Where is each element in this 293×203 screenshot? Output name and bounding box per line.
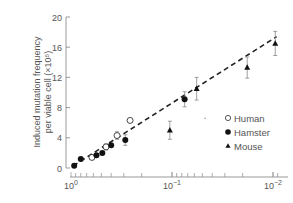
data-point-human (127, 117, 133, 123)
legend-label: Hamster (234, 127, 270, 138)
data-point-hamster (78, 156, 84, 162)
data-point-mouse (167, 121, 173, 139)
y-tick-label: 12 (52, 73, 62, 83)
legend-item-human: Human (225, 113, 264, 124)
y-axis-label: Induced mutation frequency per viable ce… (32, 36, 53, 148)
data-point-human (114, 132, 120, 140)
data-point-hamster (108, 142, 114, 148)
data-point-hamster (71, 163, 77, 169)
legend: HumanHamsterMouse (225, 113, 270, 152)
x-axis: 10010−110−2 (64, 172, 288, 191)
legend-item-hamster: Hamster (225, 127, 270, 138)
data-point-hamster (182, 92, 188, 107)
svg-text:per viable cell (×10⁵): per viable cell (×10⁵) (43, 51, 53, 134)
data-point-hamster (99, 150, 105, 156)
x-tick-label: 10−1 (163, 179, 181, 191)
mutation-frequency-chart: 048121620 10010−110−2 Induced mutation f… (0, 0, 293, 203)
legend-label: Human (234, 113, 265, 124)
data-point-mouse (194, 77, 200, 100)
y-tick-label: 0 (57, 164, 62, 174)
legend-label: Mouse (234, 141, 263, 152)
y-axis: 048121620 (52, 13, 70, 174)
data-point-hamster (93, 152, 99, 158)
x-tick-label: 100 (64, 179, 78, 191)
legend-item-mouse: Mouse (225, 141, 262, 152)
x-tick-label: 10−2 (264, 179, 282, 191)
data-point-mouse (244, 57, 250, 78)
y-tick-label: 20 (52, 13, 62, 23)
data-point-hamster (122, 135, 128, 146)
y-tick-label: 8 (57, 103, 62, 113)
svg-text:Induced mutation frequency: Induced mutation frequency (32, 36, 42, 148)
data-point-human (103, 144, 109, 150)
y-tick-label: 16 (52, 43, 62, 53)
data-point-mouse (272, 31, 278, 55)
y-tick-label: 4 (57, 133, 62, 143)
